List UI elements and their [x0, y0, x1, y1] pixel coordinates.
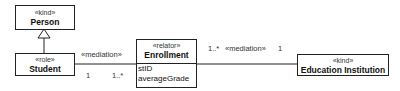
multiplicity: 1..*: [112, 71, 123, 80]
attribute: averageGrade: [138, 74, 196, 84]
class-name: Enrollment: [137, 50, 196, 60]
class-name: Student: [16, 64, 74, 74]
class-name: Education Institution: [298, 65, 388, 75]
stereotype: «kind»: [16, 9, 74, 17]
multiplicity: 1..*: [208, 44, 219, 53]
class-name: Person: [16, 17, 74, 27]
stereotype: «role»: [16, 56, 74, 64]
class-person[interactable]: «kind» Person: [15, 5, 75, 30]
class-student[interactable]: «role» Student: [15, 53, 75, 76]
stereotype: «kind»: [298, 57, 388, 65]
class-education-institution[interactable]: «kind» Education Institution: [297, 54, 389, 76]
association-label: «mediation»: [81, 50, 122, 59]
multiplicity: 1: [86, 71, 90, 80]
association-label: «mediation»: [225, 44, 266, 53]
multiplicity: 1: [278, 44, 282, 53]
attribute: stID: [138, 64, 196, 74]
class-enrollment[interactable]: «relator» Enrollment stID averageGrade: [136, 39, 197, 88]
stereotype: «relator»: [137, 42, 196, 50]
generalization-arrow-icon: [38, 29, 50, 38]
attributes-compartment: stID averageGrade: [137, 63, 196, 84]
